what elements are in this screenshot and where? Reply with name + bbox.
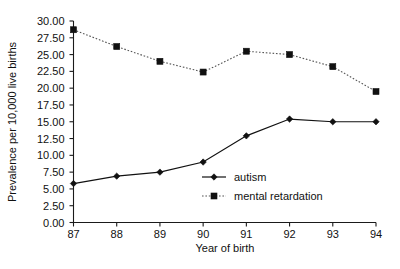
x-axis-tick-label: 91 xyxy=(240,228,252,240)
data-point-marker xyxy=(243,48,249,54)
chart-figure: 0.002.505.007.5010.0012.5015.0017.5020.0… xyxy=(0,0,400,269)
data-point-marker xyxy=(70,180,76,186)
data-point-marker xyxy=(287,52,293,58)
x-axis-tick-label: 87 xyxy=(67,228,79,240)
y-axis-tick-label: 27.50 xyxy=(37,32,65,44)
legend-marker xyxy=(211,193,217,199)
y-axis-tick-label: 25.00 xyxy=(37,49,65,61)
x-axis-tick-label: 93 xyxy=(327,228,339,240)
y-axis-tick-label: 30.00 xyxy=(37,15,65,27)
y-axis-tick-label: 17.50 xyxy=(37,99,65,111)
data-point-marker xyxy=(114,173,120,179)
x-axis-tick-label: 89 xyxy=(154,228,166,240)
data-point-marker xyxy=(200,159,206,165)
series-group xyxy=(70,27,379,187)
chart-legend: autismmental retardation xyxy=(202,171,323,202)
data-point-marker xyxy=(373,119,379,125)
y-axis-tick-label: 12.50 xyxy=(37,133,65,145)
x-axis-tick-label: 92 xyxy=(283,228,295,240)
legend-label: mental retardation xyxy=(234,190,323,202)
series-line-mental-retardation xyxy=(74,30,377,92)
data-point-marker xyxy=(114,44,120,50)
x-axis-tick-marks xyxy=(74,223,377,227)
legend-label: autism xyxy=(234,171,266,183)
y-axis-tick-label: 2.50 xyxy=(43,200,64,212)
y-axis-tick-label: 7.50 xyxy=(43,166,64,178)
y-axis-tick-label: 5.00 xyxy=(43,183,64,195)
line-chart: 0.002.505.007.5010.0012.5015.0017.5020.0… xyxy=(0,0,400,269)
x-axis-tick-label: 88 xyxy=(111,228,123,240)
x-axis-tick-labels: 8788899091929394 xyxy=(67,228,382,240)
y-axis-tick-label: 22.50 xyxy=(37,65,65,77)
data-point-marker xyxy=(373,89,379,95)
x-axis-title: Year of birth xyxy=(196,242,255,254)
y-axis-title: Prevalence per 10,000 live births xyxy=(6,41,18,202)
y-axis-tick-marks xyxy=(70,21,74,223)
x-axis-tick-label: 94 xyxy=(370,228,382,240)
x-axis-tick-label: 90 xyxy=(197,228,209,240)
series-line-autism xyxy=(74,119,377,183)
y-axis-tick-label: 0.00 xyxy=(43,217,64,229)
data-point-marker xyxy=(157,58,163,64)
data-point-marker xyxy=(330,64,336,70)
data-point-marker xyxy=(200,69,206,75)
y-axis-tick-label: 10.00 xyxy=(37,149,65,161)
y-axis-tick-label: 20.00 xyxy=(37,82,65,94)
data-point-marker xyxy=(330,119,336,125)
legend-marker xyxy=(211,174,217,180)
data-point-marker xyxy=(243,133,249,139)
data-point-marker xyxy=(71,27,77,33)
y-axis-tick-label: 15.00 xyxy=(37,116,65,128)
data-point-marker xyxy=(157,169,163,175)
data-point-marker xyxy=(286,116,292,122)
y-axis-tick-labels: 0.002.505.007.5010.0012.5015.0017.5020.0… xyxy=(37,15,65,229)
